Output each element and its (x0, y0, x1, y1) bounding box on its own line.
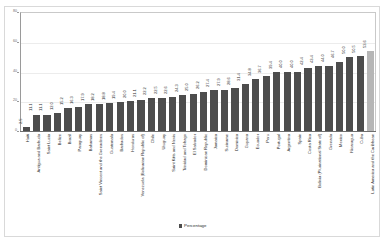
bar[interactable]: 26.2 (200, 92, 207, 131)
bar[interactable]: 50.0 (346, 57, 353, 131)
category-label: Guyana (245, 134, 249, 216)
category-slot: El Salvador (188, 133, 198, 217)
bar-slot: 50.5 (355, 12, 365, 131)
bar[interactable]: 28.6 (231, 88, 238, 131)
category-label: Uruguay (162, 134, 166, 216)
bar[interactable]: 22.6 (169, 97, 176, 131)
legend-label-percentage: Percentage (184, 224, 206, 228)
bar[interactable]: 40.0 (294, 72, 301, 132)
bar-slot: 18.8 (105, 12, 115, 131)
bar-value-label: 22.5 (154, 87, 158, 95)
bar[interactable]: 34.8 (252, 79, 259, 131)
bar[interactable]: 20.0 (127, 101, 134, 131)
bar[interactable]: 21.1 (137, 100, 144, 131)
bar[interactable]: 11.1 (33, 115, 40, 132)
bar[interactable]: 40.0 (284, 72, 291, 132)
category-label: Belize (58, 134, 62, 216)
category-slot: Guatemala (105, 133, 115, 217)
bar-slot: 17.9 (84, 12, 94, 131)
category-slot: Spain (292, 133, 302, 217)
bar[interactable]: 27.9 (221, 90, 228, 132)
bar-value-label: 31.4 (237, 73, 241, 81)
category-label: Saint Kitts and Nevis (172, 134, 176, 216)
bar-slot: 40.0 (292, 12, 302, 131)
bar-value-label: 39.4 (269, 61, 273, 69)
bar-value-label: 15.2 (60, 97, 64, 105)
y-tick-mark-20 (17, 101, 19, 102)
category-slot: Venezuela (Bolivarian Republic of) (136, 133, 146, 217)
category-label: Haiti (26, 134, 30, 216)
bar-slot: 11.1 (42, 12, 52, 131)
bar[interactable]: 42.4 (304, 68, 311, 131)
bar-value-label: 27.9 (216, 79, 220, 87)
bar[interactable]: 53.6 (367, 51, 374, 131)
bar[interactable]: 17.9 (85, 104, 92, 131)
category-label: Jamaica (214, 134, 218, 216)
bar-slot: 46.7 (334, 12, 344, 131)
bar-slot: 39.4 (272, 12, 282, 131)
bar-slot: 16.3 (73, 12, 83, 131)
category-slot: Portugal (272, 133, 282, 217)
bar-value-label: 24.3 (175, 84, 179, 92)
bar-chart: 80 60 40 20 0 2.511.111.112.015.216.317.… (0, 0, 385, 244)
bar-value-label: 42.4 (300, 57, 304, 65)
category-slot: Saint Vincent and the Grenadines (94, 133, 104, 217)
bar-value-label: 27.4 (206, 79, 210, 87)
bar-slot: 27.4 (209, 12, 219, 131)
bar[interactable]: 31.4 (242, 84, 249, 131)
category-slot: Cuba (355, 133, 365, 217)
category-slot: Bahamas (84, 133, 94, 217)
bar-value-label: 50.5 (352, 45, 356, 53)
bar[interactable]: 36.7 (263, 76, 270, 131)
bar[interactable]: 44.0 (325, 66, 332, 131)
bar-slot: 2.5 (21, 12, 31, 131)
bar-value-label: 22.6 (164, 86, 168, 94)
category-slot: Antigua and Barbuda (31, 133, 41, 217)
category-slot: Trinidad and Tobago (178, 133, 188, 217)
category-label: Portugal (277, 134, 281, 216)
bar-slot: 11.1 (31, 12, 41, 131)
bar-slot: 25.0 (188, 12, 198, 131)
bar[interactable]: 24.3 (179, 95, 186, 131)
bar[interactable]: 50.5 (357, 56, 364, 131)
bar[interactable]: 18.8 (106, 103, 113, 131)
bar[interactable]: 39.4 (273, 72, 280, 131)
chart-legend: Percentage (0, 224, 385, 228)
bar-value-label: 34.8 (248, 68, 252, 76)
category-label: El Salvador (193, 134, 197, 216)
category-label: Latin America and the Caribbean (371, 134, 375, 216)
bar[interactable]: 22.2 (148, 98, 155, 131)
category-label: Bahamas (89, 134, 93, 216)
bar-value-label: 36.7 (258, 65, 262, 73)
category-slot: Dominica (230, 133, 240, 217)
bar[interactable]: 11.1 (43, 115, 50, 132)
bar[interactable]: 15.2 (64, 108, 71, 131)
category-slot: Belize (52, 133, 62, 217)
bar[interactable]: 43.4 (315, 66, 322, 131)
bar-value-label: 53.6 (363, 40, 367, 48)
bar-value-label: 16.3 (70, 96, 74, 104)
bar-slot: 42.4 (303, 12, 313, 131)
category-label: Dominica (235, 134, 239, 216)
category-label: Nicaragua (350, 134, 354, 216)
category-label: Argentina (287, 134, 291, 216)
category-label: Spain (298, 134, 302, 216)
bar-slot: 40.0 (282, 12, 292, 131)
category-slot: Ecuador (251, 133, 261, 217)
category-slot: Haiti (21, 133, 31, 217)
bar-slot: 15.2 (63, 12, 73, 131)
category-slot: Dominican Republic (198, 133, 208, 217)
bar[interactable]: 18.2 (96, 104, 103, 131)
bar[interactable]: 16.3 (75, 107, 82, 131)
bar-value-label: 28.6 (227, 78, 231, 86)
bar-value-label: 26.2 (196, 81, 200, 89)
bar[interactable]: 19.4 (117, 102, 124, 131)
bar-slot: 44.0 (324, 12, 334, 131)
bar[interactable]: 22.5 (158, 98, 165, 131)
bar[interactable]: 46.7 (336, 62, 343, 131)
bar[interactable]: 27.4 (210, 90, 217, 131)
bar-value-label: 11.1 (39, 104, 43, 112)
bar[interactable]: 12.0 (54, 113, 61, 131)
category-label: Barbados (120, 134, 124, 216)
bar[interactable]: 25.0 (190, 94, 197, 131)
